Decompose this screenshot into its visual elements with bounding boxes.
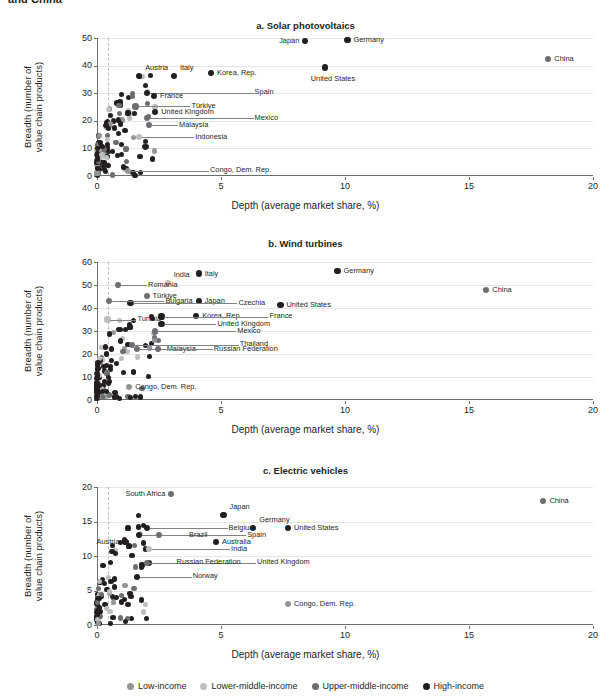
data-point-label: Austria [97,538,120,545]
data-point-label: France [269,312,292,319]
panel-title: a. Solar photovoltaics [0,20,611,31]
gridline [98,354,593,355]
data-point [95,366,100,371]
data-point [130,91,135,96]
x-axis-tick-label: 5 [206,631,236,640]
data-point-labeled [344,37,350,43]
y-axis-title-line2: value chain products) [33,511,44,601]
gridline [98,148,593,149]
panel-title: c. Electric vehicles [0,465,611,476]
legend-swatch-icon [312,683,319,690]
x-axis-tick-label: 20 [578,182,608,191]
legend-item[interactable]: Lower-middle-income [200,681,297,691]
data-point [112,584,117,589]
data-point-label: Brazil [189,531,207,538]
data-point-label: Germany [353,37,383,44]
y-axis-title: Breadth (number ofvalue chain products) [22,262,44,400]
y-axis-title-line1: Breadth (number of [22,515,33,597]
y-axis-title-line2: value chain products) [33,286,44,376]
y-axis-tick-mark [94,262,97,263]
label-leader-line [152,125,178,126]
data-point-label: China [549,497,568,504]
document-title: and China [8,0,62,5]
gridline [98,121,593,122]
legend-label: High-income [434,681,485,691]
data-point-label: United States [294,525,338,532]
label-leader-line [162,535,188,536]
data-point-labeled [220,512,226,518]
x-axis-tick-label: 20 [578,631,608,640]
data-point [125,602,130,607]
data-point-label: Congo, Dem. Rep. [294,601,355,608]
x-axis-tick-mark [345,401,346,404]
data-point [109,346,114,351]
label-leader-line [131,171,209,172]
legend-label: Lower-middle-income [211,681,297,691]
y-axis-tick-label: 20 [58,116,92,125]
legend-item[interactable]: High-income [423,681,485,691]
data-point [95,157,100,162]
data-point-label: United States [311,75,355,82]
data-point-label: Mexico [237,327,260,334]
data-point-label: Czechia [238,299,265,306]
x-axis-tick-mark [469,177,470,180]
x-axis-tick-label: 10 [330,182,360,191]
x-axis-title: Depth (average market share, %) [0,649,611,660]
x-axis-tick-mark [221,177,222,180]
data-point-labeled [277,302,283,308]
data-point [132,111,137,116]
data-point-label: Congo, Dem. Rep. [210,167,271,174]
gridline [98,556,593,557]
legend-item[interactable]: Low-income [127,681,187,691]
data-point [116,327,121,332]
data-point-label: South Africa [126,490,166,497]
y-axis-tick-mark [94,556,97,557]
data-point [150,156,155,161]
data-point [135,354,140,359]
data-point [120,349,125,354]
gridline [98,591,593,592]
y-axis-tick-label: 10 [58,144,92,153]
data-point [100,563,105,568]
x-axis-title: Depth (average market share, %) [0,424,611,435]
x-axis-tick-mark [469,626,470,629]
y-axis-tick-mark [94,121,97,122]
data-point [128,594,133,599]
data-point [148,73,153,78]
legend-swatch-icon [127,683,134,690]
data-point [94,389,99,394]
gridline [98,377,593,378]
gridline [98,487,593,488]
y-axis-tick-label: 40 [58,304,92,313]
data-point-label: France [160,92,183,99]
y-axis-tick-mark [94,522,97,523]
data-point [131,135,136,140]
data-point-label: China [554,56,573,63]
data-point [127,324,132,329]
gridline [98,66,593,67]
data-point-label: Spain [247,531,266,538]
y-axis-title-line2: value chain products) [33,62,44,152]
label-leader-line [158,331,236,332]
legend-label: Upper-middle-income [323,681,409,691]
data-point-labeled [144,293,150,299]
y-axis-tick-label: 60 [58,258,92,267]
x-axis-tick-label: 0 [82,631,112,640]
y-axis-tick-mark [94,66,97,67]
label-leader-line [140,577,192,578]
label-leader-line [152,549,230,550]
label-leader-line [150,563,176,564]
data-point [95,166,100,171]
data-point-label: United Kingdom [257,559,310,566]
data-point-label: Spain [255,89,274,96]
data-point-label: Mexico [255,114,278,121]
x-axis-tick-mark [221,626,222,629]
x-axis-tick-mark [593,401,594,404]
legend-item[interactable]: Upper-middle-income [312,681,409,691]
data-point-label: Indonesia [195,133,227,140]
x-axis-tick-label: 10 [330,406,360,415]
y-axis-tick-mark [94,38,97,39]
data-point [94,170,99,175]
y-axis-tick-label: 30 [58,89,92,98]
y-axis-tick-label: 10 [58,373,92,382]
